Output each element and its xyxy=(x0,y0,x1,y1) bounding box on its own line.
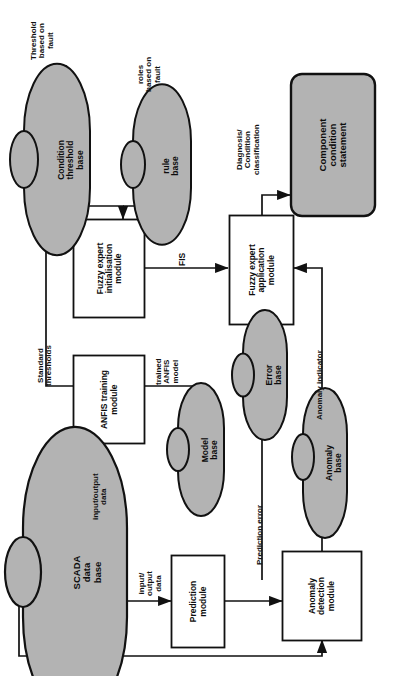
label-input-output-data-anfis: input/output data xyxy=(92,473,109,520)
label-prediction-module: Prediction module xyxy=(153,576,244,628)
tbf-line-3: fault xyxy=(47,21,55,60)
label-rule-base: rule base xyxy=(147,143,195,189)
label-anfis-training-module: ANFIS training module xyxy=(66,365,153,435)
fei-line-3: module xyxy=(114,243,123,295)
label-anomaly-base: Anomaly base xyxy=(305,444,363,482)
label-condition-threshold-base: Condition threshold base xyxy=(41,131,101,189)
modelbase-line-2: base xyxy=(210,438,219,463)
label-standard-thresholds: Standard thresholds xyxy=(37,345,54,386)
rbf-line-3: fault xyxy=(154,57,162,92)
rulebase-line-2: base xyxy=(171,156,180,175)
fea-line-3: module xyxy=(266,244,275,296)
pe-text: Prediction error xyxy=(256,505,264,565)
diag-line-3: classification xyxy=(253,124,261,175)
label-scada-data-base: SCADA data base xyxy=(43,533,132,613)
label-input-output-data-prediction: input/ output data xyxy=(138,571,163,596)
diagram-canvas: Condition threshold base rule base Compo… xyxy=(0,0,393,676)
st-line-2: thresholds xyxy=(45,345,53,386)
ctb-line-3: base xyxy=(76,140,85,180)
label-error-base: Error base xyxy=(252,356,296,394)
anfis-line-2: module xyxy=(109,370,118,429)
anomalybase-line-2: base xyxy=(334,445,343,481)
ccs-line-3: statement xyxy=(338,119,348,172)
label-fis: FIS xyxy=(178,253,187,266)
label-component-condition-statement: Component condition statement xyxy=(262,103,393,187)
edge-diagnosis xyxy=(262,195,290,215)
label-threshold-based-on-fault: Threshold based on fault xyxy=(30,21,55,60)
label-anomaly-detection-module: Anomaly detection module xyxy=(278,557,366,635)
label-trained-anfis-model: trained ANFIS model xyxy=(155,358,180,385)
anomdet-line-3: module xyxy=(327,577,336,615)
label-model-base: Model base xyxy=(188,430,232,470)
label-anomaly-indicator: Anomaly indicator xyxy=(316,350,324,420)
label-roles-based-on-fault: roles based on fault xyxy=(137,57,162,92)
label-diagnosis-condition-classification: Diagnosis/ Condition classification xyxy=(236,124,261,175)
label-fuzzy-expert-application-module: Fuzzy expert application module xyxy=(208,239,316,302)
prediction-line-2: module xyxy=(198,581,207,623)
label-fuzzy-expert-initialisation-module: Fuzzy expert initialisation module xyxy=(61,234,158,304)
ai-text: Anomaly indicator xyxy=(316,350,324,420)
fis-text: FIS xyxy=(178,253,187,266)
label-prediction-error: Prediction error xyxy=(256,505,264,565)
errorbase-line-2: base xyxy=(274,365,283,386)
iodp-line-3: data xyxy=(155,571,163,596)
scada-line-3: base xyxy=(92,556,102,590)
tam-line-3: model xyxy=(172,358,180,385)
ioda-line-2: data xyxy=(100,473,108,520)
